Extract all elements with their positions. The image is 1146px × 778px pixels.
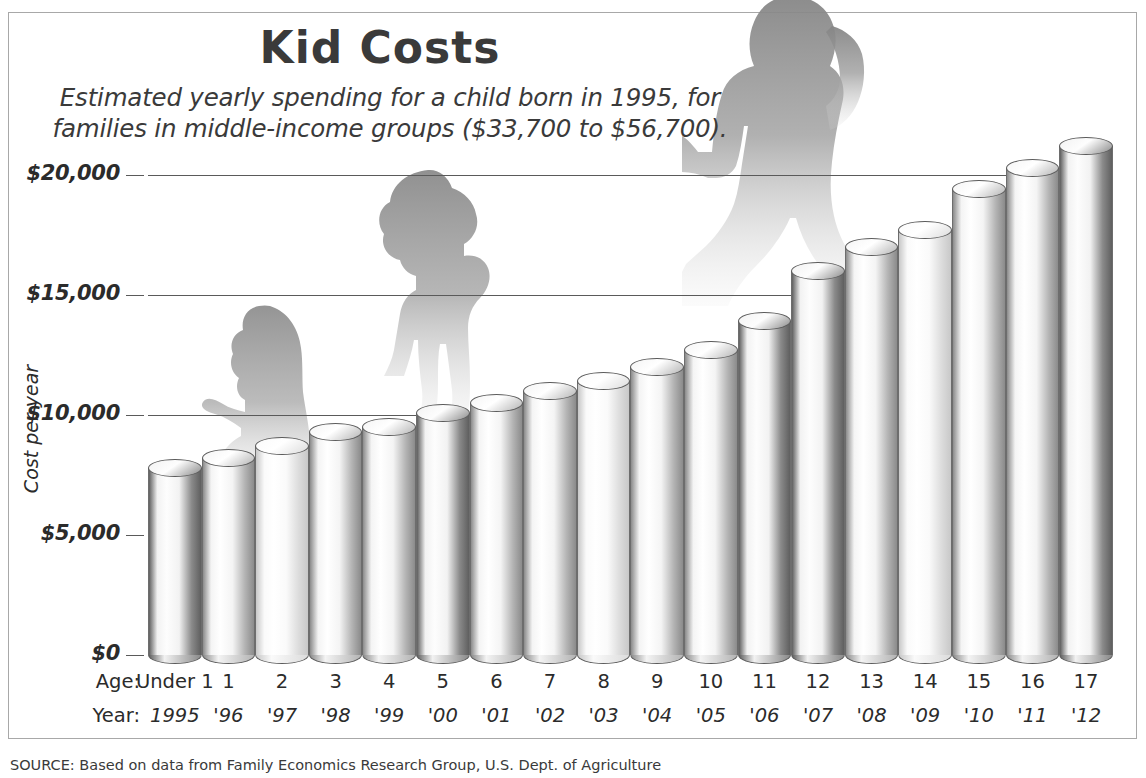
bar-body bbox=[738, 321, 792, 655]
x-axis-year-row: Year: 1995'96'97'98'99'00'01'02'03'04'05… bbox=[0, 704, 1146, 730]
bar-body bbox=[845, 247, 899, 655]
bar-body bbox=[791, 271, 845, 655]
x-axis-year-label: '12 bbox=[1045, 704, 1127, 727]
bar-under-1 bbox=[148, 459, 202, 655]
bar-body bbox=[309, 432, 363, 655]
bar-body bbox=[630, 367, 684, 655]
source-note: SOURCE: Based on data from Family Econom… bbox=[10, 757, 1110, 773]
bar-body bbox=[523, 391, 577, 655]
bar-top-ellipse bbox=[791, 262, 845, 280]
bar-top-ellipse bbox=[470, 394, 524, 412]
bar-body bbox=[1059, 146, 1113, 655]
page-title: Kid Costs bbox=[0, 22, 760, 73]
bar-6 bbox=[470, 394, 524, 655]
bar-8 bbox=[577, 372, 631, 655]
bar-top-ellipse bbox=[362, 418, 416, 436]
bar-top-ellipse bbox=[309, 423, 363, 441]
chart-page: $0$5,000$10,000$15,000$20,000 Cost per y… bbox=[0, 0, 1146, 778]
bar-body bbox=[416, 413, 470, 655]
bar-body bbox=[202, 458, 256, 655]
bar-14 bbox=[898, 221, 952, 655]
bar-2 bbox=[255, 437, 309, 655]
subtitle-line-2: families in middle-income groups ($33,70… bbox=[20, 113, 760, 144]
bar-top-ellipse bbox=[630, 358, 684, 376]
bar-body bbox=[952, 189, 1006, 655]
bar-top-ellipse bbox=[523, 382, 577, 400]
bar-body bbox=[148, 468, 202, 655]
bar-4 bbox=[362, 418, 416, 655]
bar-top-ellipse bbox=[1006, 159, 1060, 177]
bar-top-ellipse bbox=[845, 238, 899, 256]
x-axis-age-label: 17 bbox=[1045, 670, 1127, 693]
age-row-label: Age: bbox=[28, 670, 140, 693]
bar-1 bbox=[202, 449, 256, 655]
bar-9 bbox=[630, 358, 684, 655]
bar-13 bbox=[845, 238, 899, 655]
bar-3 bbox=[309, 423, 363, 655]
bar-body bbox=[255, 446, 309, 655]
x-axis-age-row: Age: Under 11234567891011121314151617 bbox=[0, 670, 1146, 696]
bar-body bbox=[898, 230, 952, 655]
bar-top-ellipse bbox=[416, 404, 470, 422]
bar-16 bbox=[1006, 159, 1060, 655]
bar-body bbox=[684, 350, 738, 655]
bar-body bbox=[1006, 168, 1060, 655]
bar-15 bbox=[952, 180, 1006, 655]
bar-7 bbox=[523, 382, 577, 655]
bar-12 bbox=[791, 262, 845, 655]
bar-body bbox=[470, 403, 524, 655]
bar-17 bbox=[1059, 137, 1113, 655]
bar-body bbox=[362, 427, 416, 655]
bar-11 bbox=[738, 312, 792, 655]
bar-top-ellipse bbox=[1059, 137, 1113, 155]
bar-body bbox=[577, 381, 631, 655]
y-axis-title: Cost per year bbox=[20, 334, 42, 524]
bar-top-ellipse bbox=[148, 459, 202, 477]
subtitle-line-1: Estimated yearly spending for a child bo… bbox=[20, 82, 760, 113]
page-subtitle: Estimated yearly spending for a child bo… bbox=[20, 82, 760, 144]
bar-top-ellipse bbox=[255, 437, 309, 455]
bar-top-ellipse bbox=[684, 341, 738, 359]
bar-5 bbox=[416, 404, 470, 655]
bar-10 bbox=[684, 341, 738, 655]
year-row-label: Year: bbox=[28, 704, 140, 727]
